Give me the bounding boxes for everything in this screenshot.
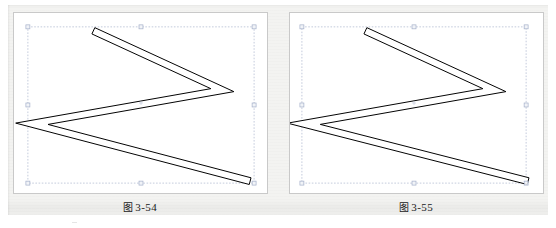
selection-handle[interactable]	[252, 181, 256, 185]
figure-3-54-caption-cjk: 图	[123, 202, 135, 213]
selection-handle[interactable]	[524, 25, 528, 29]
figure-3-55: 图3-55	[284, 5, 548, 214]
figure-3-55-caption: 图3-55	[399, 199, 433, 214]
selection-handle[interactable]	[252, 103, 256, 107]
selection-handle[interactable]	[25, 103, 29, 107]
scan-speck	[72, 222, 77, 223]
selection-handle[interactable]	[524, 103, 528, 107]
figure-3-54: 图3-54	[8, 5, 272, 214]
figure-3-55-image-box	[289, 12, 544, 194]
zigzag-shape[interactable]	[15, 28, 250, 185]
zigzag-shape[interactable]	[290, 28, 529, 185]
figure-3-54-caption: 图3-54	[123, 199, 157, 214]
selection-handle[interactable]	[139, 25, 143, 29]
figure-3-55-caption-number: 3-55	[411, 201, 433, 213]
selection-handle[interactable]	[412, 181, 416, 185]
selection-handle[interactable]	[25, 25, 29, 29]
figure-3-54-drawing-canvas	[14, 13, 267, 193]
figure-3-54-caption-number: 3-54	[135, 201, 157, 213]
selection-handle[interactable]	[299, 103, 303, 107]
selection-handle[interactable]	[252, 25, 256, 29]
figure-3-55-drawing-canvas	[290, 13, 543, 193]
selection-handle[interactable]	[412, 25, 416, 29]
figure-3-55-caption-cjk: 图	[399, 202, 411, 213]
figure-3-54-image-box	[13, 12, 268, 194]
selection-handle[interactable]	[139, 181, 143, 185]
scanned-page: 图3-54 图3-55	[0, 0, 556, 228]
selection-handle[interactable]	[25, 181, 29, 185]
selection-handle[interactable]	[524, 181, 528, 185]
selection-handle[interactable]	[299, 25, 303, 29]
selection-handle[interactable]	[299, 181, 303, 185]
figures-row: 图3-54 图3-55	[8, 5, 548, 215]
